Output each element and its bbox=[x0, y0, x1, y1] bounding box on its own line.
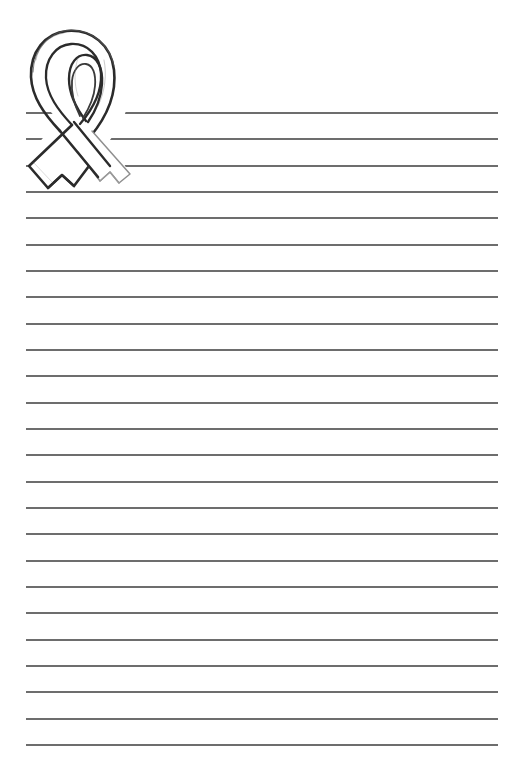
worksheet-page: Awareness Ribbon writing-lines Awareness… bbox=[0, 0, 521, 780]
worksheet-canvas bbox=[0, 0, 521, 780]
